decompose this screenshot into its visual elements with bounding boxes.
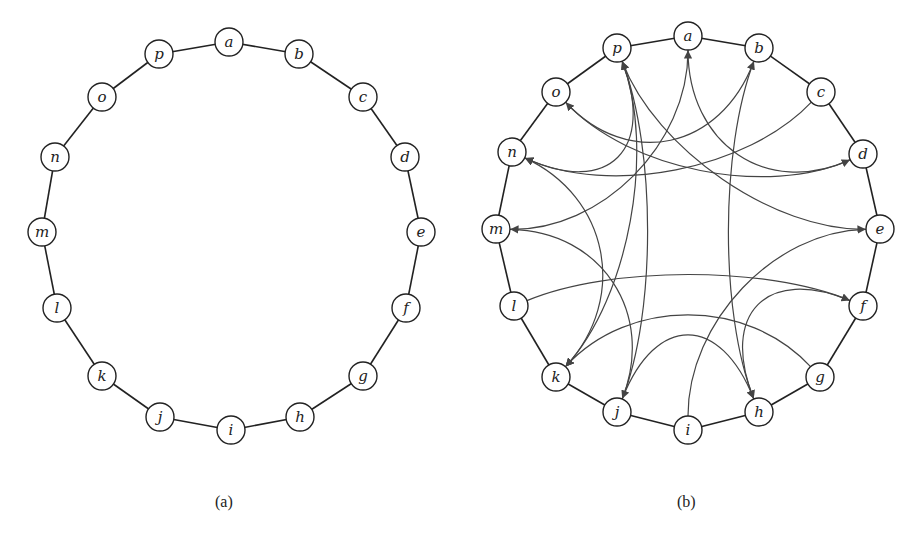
svg-text:h: h	[295, 408, 305, 426]
svg-text:g: g	[815, 368, 825, 386]
a-node-i: i	[217, 416, 245, 444]
svg-text:c: c	[359, 88, 368, 106]
b-node-p: p	[603, 34, 631, 62]
a-node-a: a	[215, 28, 243, 56]
b-node-o: o	[542, 78, 570, 106]
a-node-j: j	[146, 403, 174, 431]
a-node-p: p	[145, 40, 173, 68]
arrow-c-to-n	[526, 102, 812, 176]
arrow-a-to-d	[688, 50, 849, 172]
svg-text:i: i	[229, 421, 234, 439]
arrow-n-to-k	[525, 158, 603, 366]
b-node-g: g	[806, 363, 834, 391]
ring-graph-b: abcdefghijklmnop	[482, 22, 894, 444]
b-node-m: m	[482, 215, 510, 243]
svg-text:b: b	[294, 45, 304, 63]
svg-text:p: p	[154, 45, 164, 63]
b-node-d: d	[849, 140, 877, 168]
caption-a: (a)	[215, 493, 233, 511]
a-node-c: c	[349, 83, 377, 111]
graph-figure: abcdefghijklmnop abcdefghijklmnop	[0, 0, 911, 534]
svg-text:n: n	[507, 143, 517, 161]
svg-text:h: h	[754, 403, 764, 421]
b-node-h: h	[745, 398, 773, 426]
svg-text:a: a	[684, 27, 693, 45]
svg-text:e: e	[876, 220, 885, 238]
caption-b: (b)	[677, 493, 696, 511]
a-node-e: e	[407, 218, 435, 246]
svg-text:m: m	[35, 223, 49, 241]
svg-text:k: k	[551, 368, 560, 386]
arrow-m-to-a	[510, 51, 688, 229]
b-node-k: k	[542, 363, 570, 391]
svg-text:l: l	[55, 299, 60, 317]
ring-graph-a: abcdefghijklmnop	[28, 28, 435, 444]
arrow-d-to-o	[566, 103, 850, 177]
a-node-h: h	[286, 403, 314, 431]
a-node-n: n	[41, 143, 69, 171]
b-node-a: a	[674, 22, 702, 50]
chord-arrows-b	[510, 50, 866, 416]
a-node-k: k	[88, 362, 116, 390]
arrow-h-to-j	[623, 335, 754, 399]
b-node-i: i	[674, 416, 702, 444]
svg-text:g: g	[358, 367, 368, 385]
b-node-c: c	[807, 78, 835, 106]
a-node-m: m	[28, 218, 56, 246]
arrow-b-to-h	[728, 61, 754, 398]
svg-text:e: e	[417, 223, 426, 241]
svg-text:a: a	[225, 33, 234, 51]
svg-text:b: b	[754, 39, 764, 57]
arrow-p-to-k	[566, 61, 637, 366]
b-node-n: n	[498, 138, 526, 166]
arrow-i-to-e	[688, 229, 865, 416]
svg-text:d: d	[400, 148, 410, 166]
a-node-l: l	[43, 294, 71, 322]
b-node-j: j	[603, 398, 631, 426]
a-node-g: g	[349, 362, 377, 390]
svg-text:k: k	[97, 367, 106, 385]
svg-text:p: p	[612, 39, 622, 57]
arrow-l-to-f	[527, 274, 849, 300]
b-node-e: e	[866, 215, 894, 243]
svg-text:c: c	[817, 83, 826, 101]
b-node-l: l	[500, 292, 528, 320]
svg-text:o: o	[97, 88, 106, 106]
b-node-b: b	[745, 34, 773, 62]
svg-text:i: i	[686, 421, 691, 439]
svg-text:l: l	[512, 297, 517, 315]
arrow-j-to-m	[511, 229, 632, 399]
arrow-f-to-h	[743, 289, 851, 398]
arrow-o-to-b	[566, 62, 754, 142]
arrow-g-to-k	[566, 315, 810, 367]
a-node-f: f	[392, 294, 420, 322]
svg-text:o: o	[551, 83, 560, 101]
a-node-o: o	[88, 83, 116, 111]
svg-text:m: m	[489, 220, 503, 238]
svg-text:n: n	[50, 148, 60, 166]
arrow-p-to-n	[526, 61, 634, 172]
a-node-d: d	[391, 143, 419, 171]
b-node-f: f	[849, 292, 877, 320]
a-node-b: b	[285, 40, 313, 68]
svg-text:d: d	[858, 145, 868, 163]
